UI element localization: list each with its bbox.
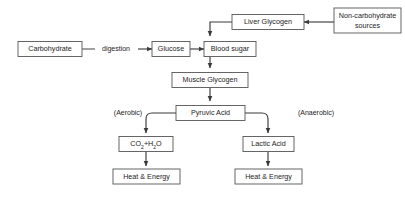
node-heat-energy-right: Heat & Energy <box>235 169 302 184</box>
node-lactic-acid: Lactic Acid <box>243 137 294 152</box>
node-non-carbohydrate-sources-label-line2: sources <box>355 21 381 30</box>
node-heat-energy-left-label: Heat & Energy <box>123 172 170 181</box>
node-blood-sugar-label: Blood sugar <box>211 44 250 53</box>
node-co2-h2o-label: CO2+H2O <box>130 139 162 149</box>
node-liver-glycogen-label: Liver Glycogen <box>244 17 292 26</box>
node-co2-h2o-label-part3: O <box>156 139 162 148</box>
node-muscle-glycogen-label: Muscle Glycogen <box>182 75 237 84</box>
node-non-carbohydrate-sources-label-line1: Non-carbohydrate <box>339 11 397 20</box>
node-pyruvic-acid: Pyruvic Acid <box>176 106 245 121</box>
flowchart-canvas: Carbohydrate digestion Glucose Blood sug… <box>0 0 405 197</box>
node-carbohydrate-label: Carbohydrate <box>28 44 72 53</box>
node-co2-h2o-label-part2: +H <box>144 139 153 148</box>
node-heat-energy-right-label: Heat & Energy <box>245 172 292 181</box>
edge-pyruvic-acid-to-co2-h2o <box>146 113 176 133</box>
metabolism-flowchart-diagram: Carbohydrate digestion Glucose Blood sug… <box>0 0 405 197</box>
annotation-aerobic: (Aerobic) <box>114 109 142 117</box>
node-non-carbohydrate-sources: Non-carbohydrate sources <box>334 8 401 33</box>
node-carbohydrate: Carbohydrate <box>18 42 82 57</box>
edge-liver-glycogen-to-blood-sugar <box>210 22 232 36</box>
node-liver-glycogen: Liver Glycogen <box>232 15 304 30</box>
edge-pyruvic-acid-to-lactic-acid <box>245 113 268 133</box>
node-co2-h2o-label-part1: CO <box>130 139 141 148</box>
annotation-anaerobic: (Anaerobic) <box>298 109 334 117</box>
node-glucose: Glucose <box>152 42 190 57</box>
node-glucose-label: Glucose <box>158 44 184 53</box>
node-lactic-acid-label: Lactic Acid <box>251 139 285 148</box>
node-heat-energy-left: Heat & Energy <box>113 169 180 184</box>
node-blood-sugar: Blood sugar <box>204 42 256 57</box>
node-muscle-glycogen: Muscle Glycogen <box>172 73 248 88</box>
node-co2-h2o: CO2+H2O <box>119 137 173 152</box>
edge-label-digestion: digestion <box>102 45 130 53</box>
node-pyruvic-acid-label: Pyruvic Acid <box>191 108 230 117</box>
